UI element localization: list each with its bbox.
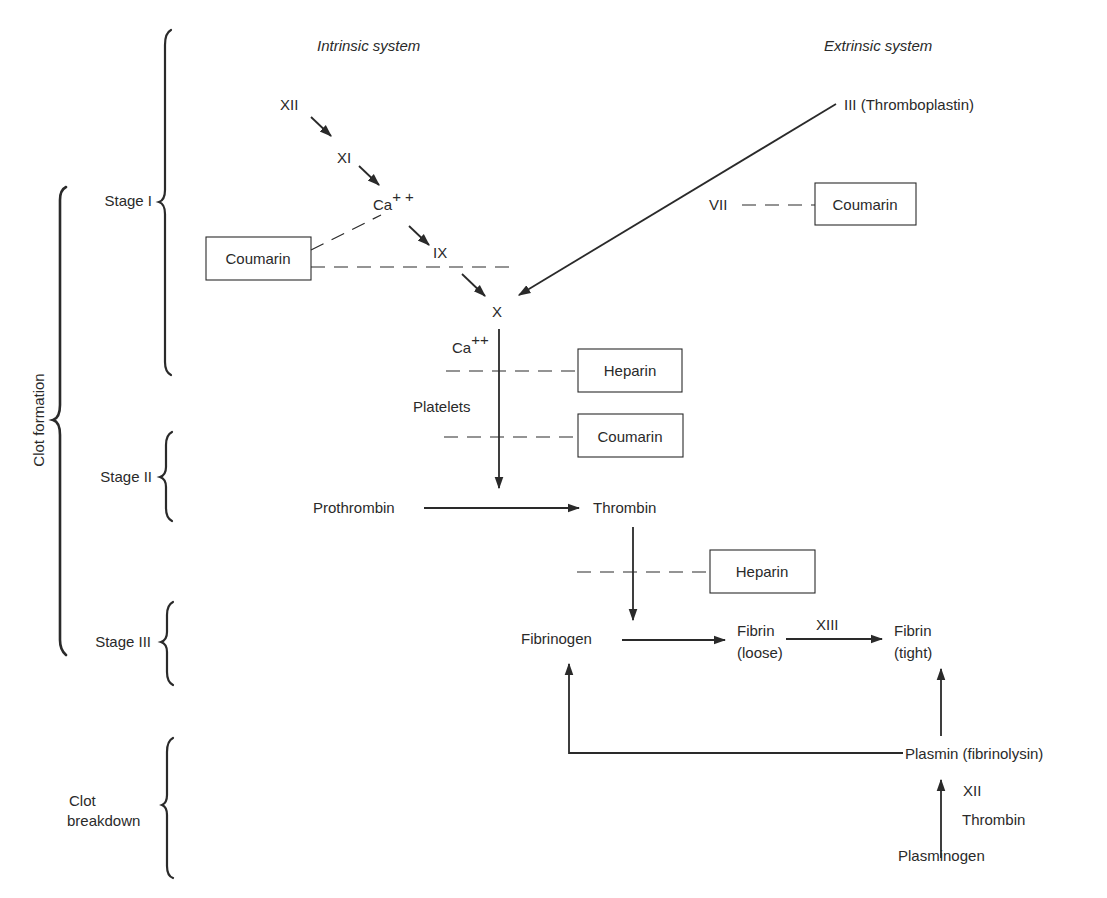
factor-vii: VII: [709, 196, 727, 213]
fibrin-loose-label-line1: Fibrin: [737, 622, 775, 639]
factor-ca-intrinsic: Ca+ +: [373, 188, 414, 213]
factor-ca-common: Ca++: [452, 331, 489, 356]
coumarin-label-extrinsic: Coumarin: [832, 196, 897, 213]
coumarin-label-stage1: Coumarin: [597, 428, 662, 445]
fibrin-tight-label-line2: (tight): [894, 644, 932, 661]
factor-iii-thromboplastin: III (Thromboplastin): [844, 96, 974, 113]
factor-xii-breakdown: XII: [963, 782, 981, 799]
extrinsic-system-header: Extrinsic system: [824, 37, 932, 54]
prothrombin-label: Prothrombin: [313, 499, 395, 516]
arrow-plasmin-to-fibrinogen: [569, 664, 903, 753]
coagulation-cascade-diagram: Clot formation Stage I Stage II Stage II…: [0, 0, 1107, 898]
arrow-ca-to-ix: [409, 226, 429, 245]
clot-breakdown-label-line1: Clot: [69, 792, 97, 809]
heparin-label-stage2: Heparin: [736, 563, 789, 580]
intrinsic-system-header: Intrinsic system: [317, 37, 420, 54]
stage1-brace: [159, 30, 171, 375]
stage3-brace: [161, 602, 173, 685]
stage2-brace: [160, 432, 172, 521]
heparin-label-stage1: Heparin: [604, 362, 657, 379]
fibrin-loose-label-line2: (loose): [737, 644, 783, 661]
clot-formation-brace: [53, 187, 66, 655]
thrombin-breakdown-label: Thrombin: [962, 811, 1025, 828]
factor-ix: IX: [433, 244, 447, 261]
platelets-label: Platelets: [413, 398, 471, 415]
stage3-label: Stage III: [95, 633, 151, 650]
arrow-xi-to-ca: [359, 166, 379, 185]
factor-xi: XI: [337, 149, 351, 166]
fibrinogen-label: Fibrinogen: [521, 630, 592, 647]
factor-x: X: [492, 303, 502, 320]
arrow-ix-to-x: [462, 274, 485, 296]
thrombin-label: Thrombin: [593, 499, 656, 516]
coumarin-label-intrinsic: Coumarin: [225, 250, 290, 267]
fibrin-tight-label-line1: Fibrin: [894, 622, 932, 639]
coumarin-to-ca-inhibition: [311, 215, 381, 250]
arrow-xii-to-xi: [311, 117, 331, 136]
stage1-label: Stage I: [104, 192, 152, 209]
clot-formation-label: Clot formation: [30, 373, 47, 466]
stage2-label: Stage II: [100, 468, 152, 485]
plasminogen-label: Plasminogen: [898, 847, 985, 864]
clot-breakdown-brace: [162, 738, 173, 878]
factor-xiii: XIII: [816, 616, 839, 633]
arrow-iii-to-x: [519, 104, 836, 295]
clot-breakdown-label-line2: breakdown: [67, 812, 140, 829]
factor-xii: XII: [280, 96, 298, 113]
plasmin-label: Plasmin (fibrinolysin): [905, 745, 1043, 762]
